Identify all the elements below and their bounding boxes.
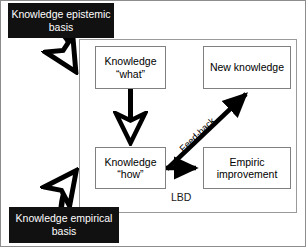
node-knowledge-how[interactable]: Knowledge “how” bbox=[95, 147, 166, 189]
diagram-canvas: Knowledge “what” New knowledge Knowledge… bbox=[0, 0, 306, 247]
node-new-knowledge[interactable]: New knowledge bbox=[203, 46, 291, 89]
node-knowledge-what-line1: Knowledge bbox=[105, 55, 157, 68]
callout-knowledge-epistemic-basis[interactable]: Knowledge epistemic basis bbox=[8, 3, 114, 38]
node-knowledge-what[interactable]: Knowledge “what” bbox=[95, 46, 166, 89]
lbd-frame-label: LBD bbox=[171, 191, 191, 203]
callout-empirical-line1: Knowledge bbox=[16, 212, 68, 224]
node-knowledge-how-line2: “how” bbox=[105, 168, 157, 181]
node-empiric-improvement-line2: improvement bbox=[217, 168, 278, 181]
node-knowledge-what-line2: “what” bbox=[105, 68, 157, 81]
node-empiric-improvement-line1: Empiric bbox=[217, 156, 278, 169]
node-knowledge-how-line1: Knowledge bbox=[105, 156, 157, 169]
node-new-knowledge-line1: New knowledge bbox=[210, 61, 284, 74]
callout-knowledge-empirical-basis[interactable]: Knowledge empirical basis bbox=[9, 207, 119, 243]
callout-epistemic-line1: Knowledge bbox=[11, 8, 63, 20]
edge-epistemic-to-what bbox=[61, 33, 73, 67]
node-empiric-improvement[interactable]: Empiric improvement bbox=[203, 147, 291, 189]
